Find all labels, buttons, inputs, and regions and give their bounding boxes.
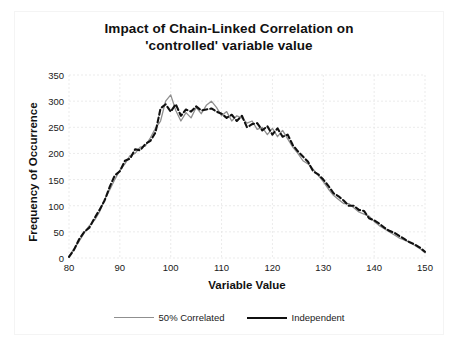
legend-line-correlated-icon <box>114 317 154 318</box>
x-tick-label: 150 <box>405 262 445 273</box>
data-series-layer <box>69 95 425 257</box>
legend-item-independent: Independent <box>247 312 345 323</box>
legend-line-independent-icon <box>247 317 287 319</box>
x-tick-label: 90 <box>100 262 140 273</box>
legend-label-correlated: 50% Correlated <box>159 312 225 323</box>
chart-canvas <box>0 0 458 346</box>
x-tick-label: 130 <box>303 262 343 273</box>
y-axis-label: Frequency of Occurrence <box>27 77 39 267</box>
chart-legend: 50% Correlated Independent <box>0 312 458 323</box>
x-tick-label: 140 <box>354 262 394 273</box>
x-tick-label: 110 <box>202 262 242 273</box>
x-tick-label: 120 <box>252 262 292 273</box>
x-tick-label: 80 <box>49 262 89 273</box>
chart-screenshot: Impact of Chain-Linked Correlation on 'c… <box>0 0 458 346</box>
plot-container: 050100150200250300350 809010011012013014… <box>0 0 458 346</box>
x-tick-label: 100 <box>151 262 191 273</box>
x-axis-label: Variable Value <box>69 279 425 291</box>
legend-item-correlated: 50% Correlated <box>114 312 225 323</box>
legend-label-independent: Independent <box>292 312 345 323</box>
